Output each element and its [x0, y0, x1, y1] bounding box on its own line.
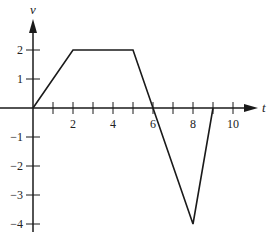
tick-labels: 24681021−1−2−3−4: [10, 43, 239, 231]
y-tick-label: −3: [10, 188, 23, 202]
x-tick-label: 10: [227, 117, 239, 131]
y-tick-label: 1: [17, 72, 23, 86]
x-axis-arrow-icon: [244, 104, 258, 112]
axes: [0, 19, 258, 232]
y-axis-label: v: [30, 2, 36, 17]
y-tick-label: −4: [10, 217, 23, 231]
y-tick-label: 2: [17, 43, 23, 57]
y-tick-label: −1: [10, 130, 23, 144]
ticks: [26, 50, 233, 224]
x-tick-label: 2: [70, 117, 76, 131]
x-tick-label: 8: [190, 117, 196, 131]
y-axis-arrow-icon: [29, 19, 37, 33]
x-tick-label: 4: [110, 117, 116, 131]
y-tick-label: −2: [10, 159, 23, 173]
x-tick-label: 6: [150, 117, 156, 131]
x-axis-label: t: [262, 100, 266, 115]
velocity-time-chart: 24681021−1−2−3−4 t v: [0, 0, 272, 242]
data-line: [33, 50, 213, 224]
